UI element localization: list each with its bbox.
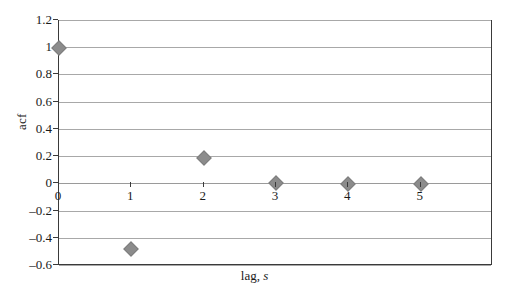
- x-tick-mark: [275, 182, 276, 187]
- x-tick-mark: [130, 182, 131, 187]
- acf-chart: 1.210.80.60.40.20–0.2–0.4–0.6 acf 012345…: [0, 0, 509, 294]
- x-tick-label: 0: [46, 189, 70, 202]
- x-tick-label: 4: [335, 189, 359, 202]
- gridline: [59, 238, 491, 239]
- y-tick-label: –0.4: [0, 231, 52, 244]
- x-axis-title-text: lag,: [241, 268, 263, 283]
- gridline: [59, 211, 491, 212]
- data-point-marker: [124, 241, 140, 257]
- data-point-marker: [196, 151, 212, 167]
- y-tick-label: 1.2: [0, 13, 52, 26]
- x-tick-mark: [347, 182, 348, 187]
- x-tick-label: 3: [263, 189, 287, 202]
- gridline: [59, 47, 491, 48]
- y-tick-label: 0.2: [0, 149, 52, 162]
- x-tick-mark: [203, 182, 204, 187]
- plot-area: [58, 20, 492, 265]
- gridline: [59, 156, 491, 157]
- gridline: [59, 102, 491, 103]
- x-tick-mark: [58, 182, 59, 187]
- x-axis-title: lag, s: [0, 268, 509, 284]
- x-axis-title-variable: s: [263, 268, 268, 283]
- data-point-marker: [51, 40, 67, 56]
- y-tick-label: 1: [0, 40, 52, 53]
- y-tick-label: 0: [0, 176, 52, 189]
- gridline: [59, 129, 491, 130]
- y-tick-label: 0.8: [0, 67, 52, 80]
- x-tick-label: 2: [191, 189, 215, 202]
- y-tick-label: 0.6: [0, 95, 52, 108]
- gridline: [59, 74, 491, 75]
- x-tick-label: 5: [408, 189, 432, 202]
- x-tick-label: 1: [118, 189, 142, 202]
- y-tick-label: –0.2: [0, 204, 52, 217]
- y-axis-title: acf: [14, 114, 30, 130]
- gridline: [59, 20, 491, 21]
- x-tick-mark: [420, 182, 421, 187]
- gridline: [59, 265, 491, 266]
